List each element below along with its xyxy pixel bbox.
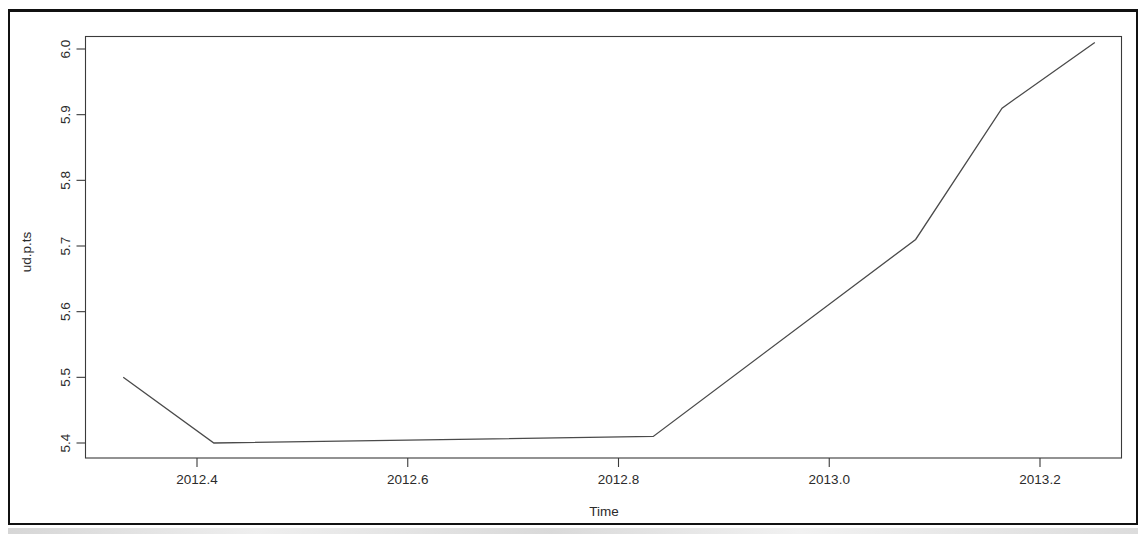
x-tick-label: 2013.2 [1019,472,1060,487]
y-tick-label: 6.0 [58,40,73,59]
plot-panel-box [86,37,1122,459]
x-axis-ticks: 2012.42012.62012.82013.02013.2 [176,458,1060,487]
data-series-line [123,42,1095,443]
screenshot-root: 5.45.55.65.75.85.96.0 2012.42012.62012.8… [0,0,1146,543]
y-tick-label: 5.7 [58,237,73,256]
y-axis-ticks: 5.45.55.65.75.85.96.0 [58,40,85,453]
x-tick-label: 2012.6 [387,472,428,487]
y-tick-label: 5.6 [58,302,73,321]
y-axis-title: ud.p.ts [19,231,34,272]
x-tick-label: 2012.4 [176,472,218,487]
y-tick-label: 5.4 [58,433,73,452]
x-tick-label: 2012.8 [598,472,639,487]
line-chart: 5.45.55.65.75.85.96.0 2012.42012.62012.8… [0,0,1146,543]
x-axis-title: Time [589,504,619,519]
y-tick-label: 5.9 [58,105,73,124]
y-tick-label: 5.8 [58,171,73,190]
chart-svg: 5.45.55.65.75.85.96.0 2012.42012.62012.8… [0,0,1146,543]
x-tick-label: 2013.0 [809,472,850,487]
y-tick-label: 5.5 [58,368,73,387]
